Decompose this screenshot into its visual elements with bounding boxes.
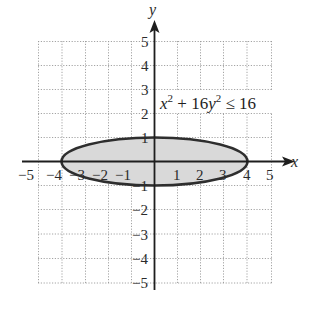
y-tick: 2 [141, 106, 149, 122]
x-tick: −5 [18, 167, 34, 183]
x-tick: −1 [115, 167, 131, 183]
y-tick: −3 [132, 227, 148, 243]
y-axis-label: y [147, 1, 157, 19]
x-tick: −4 [46, 167, 62, 183]
y-tick: −1 [132, 178, 148, 194]
x-tick: 3 [219, 167, 227, 183]
x-tick: 1 [173, 167, 181, 183]
x-tick: 5 [266, 167, 274, 183]
y-tick: 4 [141, 58, 149, 74]
y-tick: −2 [132, 202, 148, 218]
inequality-annotation: x2 + 16y2 ≤ 16 [159, 92, 256, 113]
y-tick: 1 [141, 130, 149, 146]
inequality-graph: x y −5 −4 −3 −2 −1 1 2 3 4 5 5 4 3 2 1 −… [0, 0, 310, 312]
x-tick: 2 [196, 167, 204, 183]
y-tick: 5 [141, 34, 149, 50]
y-tick: −5 [132, 275, 148, 291]
x-tick: −2 [92, 167, 108, 183]
x-tick: 4 [243, 167, 251, 183]
y-tick: 3 [141, 82, 149, 98]
y-tick: −4 [132, 251, 148, 267]
x-axis-label: x [290, 153, 298, 170]
x-tick: −3 [69, 167, 85, 183]
